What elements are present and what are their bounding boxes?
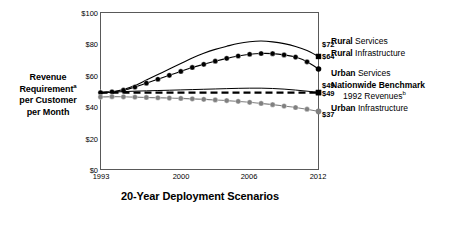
data-point-marker bbox=[281, 103, 286, 108]
legend-rural-infrastructure-bold: Rural bbox=[331, 48, 353, 58]
data-point-marker bbox=[132, 95, 137, 100]
data-point-marker bbox=[213, 59, 218, 64]
data-point-marker bbox=[201, 62, 206, 67]
data-point-marker bbox=[224, 56, 229, 61]
legend-urban-services-bold: Urban bbox=[331, 68, 356, 78]
data-point-marker bbox=[201, 97, 206, 102]
legend-item-urban-services: Urban Services bbox=[331, 68, 451, 80]
legend-item-nationwide-benchmark: Nationwide Benchmark bbox=[331, 80, 451, 92]
data-point-marker bbox=[270, 51, 275, 56]
end-marker-nationwide-benchmark-1992-revenues bbox=[316, 90, 321, 95]
data-point-marker bbox=[98, 94, 103, 99]
chart-title: 20-Year Deployment Scenarios bbox=[60, 190, 340, 202]
data-point-marker bbox=[236, 99, 241, 104]
legend-item-urban-infrastructure: Urban Infrastructure bbox=[331, 103, 451, 115]
data-point-marker bbox=[224, 98, 229, 103]
data-point-marker bbox=[121, 94, 126, 99]
data-point-marker bbox=[293, 54, 298, 59]
data-point-marker bbox=[190, 96, 195, 101]
data-point-marker bbox=[293, 105, 298, 110]
chart-legend: Rural Services Rural Infrastructure Urba… bbox=[331, 36, 451, 114]
data-point-marker bbox=[304, 59, 309, 64]
series-layer bbox=[98, 41, 319, 112]
legend-item-1992-revenues: 1992 Revenuesb bbox=[331, 91, 451, 103]
legend-urban-services-rest: Services bbox=[356, 68, 391, 78]
legend-urban-infrastructure-bold: Urban bbox=[331, 103, 356, 113]
data-point-marker bbox=[178, 69, 183, 74]
legend-rural-services-bold: Rural bbox=[331, 36, 353, 46]
data-point-marker bbox=[144, 81, 149, 86]
legend-1992-revenues-text: 1992 Revenues bbox=[343, 91, 403, 101]
data-point-marker bbox=[281, 52, 286, 57]
data-point-marker bbox=[304, 107, 309, 112]
series-line-rural-services bbox=[101, 41, 319, 93]
data-point-marker bbox=[167, 95, 172, 100]
legend-urban-infrastructure-rest: Infrastructure bbox=[356, 103, 408, 113]
data-point-marker bbox=[190, 65, 195, 70]
data-point-marker bbox=[236, 53, 241, 58]
end-marker-rural-services bbox=[316, 54, 321, 59]
data-point-marker bbox=[144, 95, 149, 100]
data-point-marker bbox=[247, 100, 252, 105]
end-marker-rural-infrastructure bbox=[316, 66, 322, 72]
data-point-marker bbox=[109, 94, 114, 99]
data-point-marker bbox=[132, 84, 137, 89]
legend-item-rural-infrastructure: Rural Infrastructure bbox=[331, 48, 451, 60]
data-point-marker bbox=[155, 95, 160, 100]
legend-spacer bbox=[331, 59, 451, 68]
data-point-marker bbox=[167, 73, 172, 78]
legend-rural-infrastructure-rest: Infrastructure bbox=[353, 48, 405, 58]
legend-footnote-marker-b: b bbox=[403, 90, 406, 96]
data-point-marker bbox=[247, 52, 252, 57]
data-point-marker bbox=[155, 77, 160, 82]
legend-item-rural-services: Rural Services bbox=[331, 36, 451, 48]
data-point-marker bbox=[259, 51, 264, 56]
data-point-marker bbox=[178, 96, 183, 101]
legend-rural-services-rest: Services bbox=[353, 36, 388, 46]
data-point-marker bbox=[259, 101, 264, 106]
data-point-marker bbox=[270, 102, 275, 107]
data-point-marker bbox=[213, 97, 218, 102]
end-marker-urban-infrastructure bbox=[316, 109, 322, 115]
